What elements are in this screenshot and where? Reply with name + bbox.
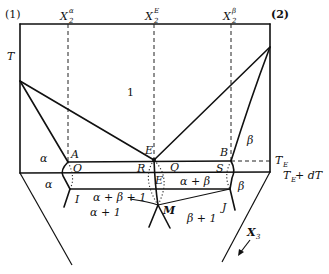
point-o-label: O	[73, 162, 82, 175]
svg-text:X: X	[59, 10, 69, 23]
region-beta-liquid-label: β + 1	[186, 212, 217, 225]
lower-isotherm	[20, 172, 270, 265]
point-m-label: M	[162, 204, 176, 217]
svg-text:β: β	[231, 7, 236, 15]
region-alpha-upper-label: α	[40, 152, 48, 165]
point-e-upper-label: E	[144, 144, 153, 157]
te-label: T E	[275, 154, 288, 169]
svg-text:E: E	[153, 7, 159, 15]
composition-marker-beta: X 2 β	[222, 7, 237, 25]
composition-marker-eutectic: X 2 E	[144, 7, 159, 25]
region-alpha-beta-label: α + β	[180, 175, 210, 188]
phase-diagram: (1) (2) T X 2 α X 2 E X 2 β T E T E + dT…	[0, 0, 329, 274]
composition-marker-alpha: X 2 α	[59, 7, 74, 25]
svg-text:α: α	[69, 7, 74, 15]
temperature-axis-label: T	[7, 50, 16, 63]
svg-text:E: E	[282, 161, 288, 169]
point-r-label: R	[136, 162, 145, 175]
svg-text:2: 2	[153, 17, 159, 25]
te-plus-dt-label: T E + dT	[283, 169, 324, 184]
x3-arrow-icon	[238, 240, 250, 256]
svg-text:+ dT: + dT	[295, 169, 324, 182]
svg-text:X: X	[144, 10, 154, 23]
component-1-label: (1)	[5, 8, 21, 21]
eutectic-point	[152, 158, 156, 162]
component-2-label: (2)	[271, 8, 289, 21]
point-q-label: Q	[170, 161, 179, 174]
point-i-label: I	[74, 193, 80, 206]
point-a-label: A	[70, 148, 79, 161]
point-b-label: B	[219, 146, 228, 159]
region-alpha-beta-liquid-label: α + β + 1	[93, 191, 146, 204]
region-beta-lower-label: β	[237, 180, 244, 193]
svg-text:2: 2	[68, 17, 74, 25]
svg-text:2: 2	[231, 17, 237, 25]
composition-guides	[68, 24, 231, 162]
point-j-label: J	[220, 201, 227, 214]
svg-text:X: X	[246, 226, 256, 239]
region-liquid-label: 1	[127, 86, 134, 99]
point-s-label: S	[216, 162, 224, 175]
x3-axis-label: X 3	[246, 226, 261, 241]
svg-text:X: X	[222, 10, 232, 23]
region-alpha-lower-label: α	[45, 178, 53, 191]
region-beta-upper-label: β	[246, 134, 253, 147]
eutectic-isotherm	[68, 161, 270, 162]
region-alpha-liquid-label: α + 1	[90, 206, 121, 219]
point-e-lower-label: E	[154, 174, 163, 187]
svg-text:3: 3	[256, 233, 261, 241]
